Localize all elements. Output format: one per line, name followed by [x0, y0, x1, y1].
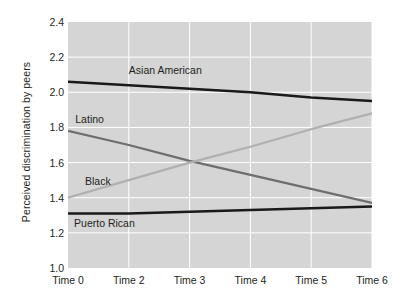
line-chart: Perceived discrimination by peers 2.42.2… — [0, 0, 404, 307]
series-canvas — [68, 22, 372, 268]
x-tick-label: Time 6 — [356, 274, 388, 286]
y-tick-label: 1.6 — [30, 157, 64, 169]
y-tick-label: 2.2 — [30, 51, 64, 63]
y-tick-label: 1.8 — [30, 121, 64, 133]
series-line — [68, 82, 372, 101]
plot-area — [68, 22, 372, 268]
series-label: Asian American — [129, 64, 202, 76]
y-tick-label: 2.0 — [30, 86, 64, 98]
y-tick-label: 1.0 — [30, 262, 64, 274]
x-tick-label: Time 3 — [174, 274, 206, 286]
y-axis-ticks: 2.42.22.01.81.61.41.21.0 — [26, 0, 64, 307]
series-label: Black — [85, 175, 111, 187]
x-tick-label: Time 5 — [295, 274, 327, 286]
x-tick-label: Time 0 — [52, 274, 84, 286]
series-line — [68, 207, 372, 214]
series-label: Latino — [75, 113, 104, 125]
y-tick-label: 2.4 — [30, 16, 64, 28]
series-label: Puerto Rican — [74, 217, 135, 229]
series-line — [68, 131, 372, 203]
y-tick-label: 1.2 — [30, 227, 64, 239]
y-tick-label: 1.4 — [30, 192, 64, 204]
x-tick-label: Time 2 — [113, 274, 145, 286]
series-line — [68, 113, 372, 197]
x-tick-label: Time 4 — [235, 274, 267, 286]
